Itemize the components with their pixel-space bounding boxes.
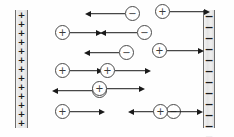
arrow-head [197,109,203,115]
particle-positive: + [55,63,103,78]
particle-positive: + [153,104,203,119]
arrow-head [52,88,58,94]
positive-charge-icon: + [152,43,167,58]
arrow-head [204,9,210,15]
negative-charge-icon: − [119,45,134,60]
arrow-shaft [115,70,147,72]
velocity-arrow-left [84,48,119,58]
arrow-head [84,50,90,56]
arrow-shaft [107,88,141,90]
arrow-head [99,109,105,115]
arrow-head [145,68,151,74]
arrow-shaft [88,52,119,54]
particle-positive: + [152,43,204,58]
particle-positive: + [155,4,210,19]
positive-charge-icon: + [153,104,168,119]
velocity-arrow-right [115,66,151,76]
charged-plates-diagram: +++++++++++++−−−−−−−−−−−−−−++−−+++−++−+ [0,0,234,137]
positive-charge-icon: + [55,63,70,78]
positive-charge-icon: + [92,81,107,96]
arrow-head [128,109,134,115]
arrow-head [100,30,106,36]
particle-negative: − [100,25,152,40]
velocity-arrow-left [52,86,92,96]
negative-charge-icon: − [137,25,152,40]
arrow-shaft [56,90,92,92]
velocity-arrow-right [107,84,145,94]
arrow-head [139,86,145,92]
particle-negative: − [84,45,134,60]
positive-charge-icon: + [55,104,70,119]
arrow-shaft [70,111,101,113]
particle-negative: − [85,6,140,21]
arrow-shaft [70,70,99,72]
velocity-arrow-right [70,66,103,76]
velocity-arrow-right [170,7,210,17]
positive-charge-icon: + [100,63,115,78]
velocity-arrow-right [167,46,204,56]
positive-charge-icon: + [55,25,70,40]
particle-positive: + [100,63,151,78]
particle-positive: + [92,81,145,96]
arrow-shaft [89,13,125,15]
positive-charge-icon: + [155,4,170,19]
arrow-shaft [104,32,137,34]
velocity-arrow-right [70,107,105,117]
particle-positive: + [55,25,102,40]
arrow-shaft [167,50,200,52]
arrow-shaft [170,11,206,13]
plate-charge-sign-negative: − [204,132,213,137]
arrow-head [85,11,91,17]
negative-charge-icon: − [125,6,140,21]
right-plate: −−−−−−−−−−−−− [203,10,215,128]
left-plate: +++++++++++++ [15,10,28,128]
plate-charge-sign-positive: + [18,119,26,128]
particle-positive: + [55,104,105,119]
arrow-shaft [168,111,199,113]
velocity-arrow-left [85,9,125,19]
velocity-arrow-right [168,107,203,117]
arrow-shaft [70,32,98,34]
velocity-arrow-right [70,28,102,38]
velocity-arrow-left [100,28,137,38]
arrow-head [198,48,204,54]
